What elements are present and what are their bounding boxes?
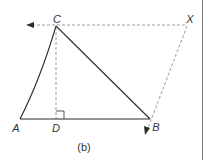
down-arrow-icon [144, 126, 150, 135]
right-angle-marker [56, 111, 64, 119]
point-label-d: D [52, 123, 60, 134]
dashed-line-xb [148, 26, 187, 128]
panel-border [202, 0, 203, 160]
point-label-a: A [12, 123, 19, 134]
diagram-canvas [0, 0, 206, 160]
left-arrow-icon [26, 22, 34, 28]
point-label-x: X [186, 14, 193, 25]
figure-caption: (b) [77, 142, 90, 153]
point-label-b: B [152, 122, 159, 133]
triangle-diagram: C X A D B (b) [0, 0, 206, 160]
side-ac [20, 26, 56, 119]
side-cb [56, 26, 150, 119]
point-label-c: C [53, 14, 61, 25]
